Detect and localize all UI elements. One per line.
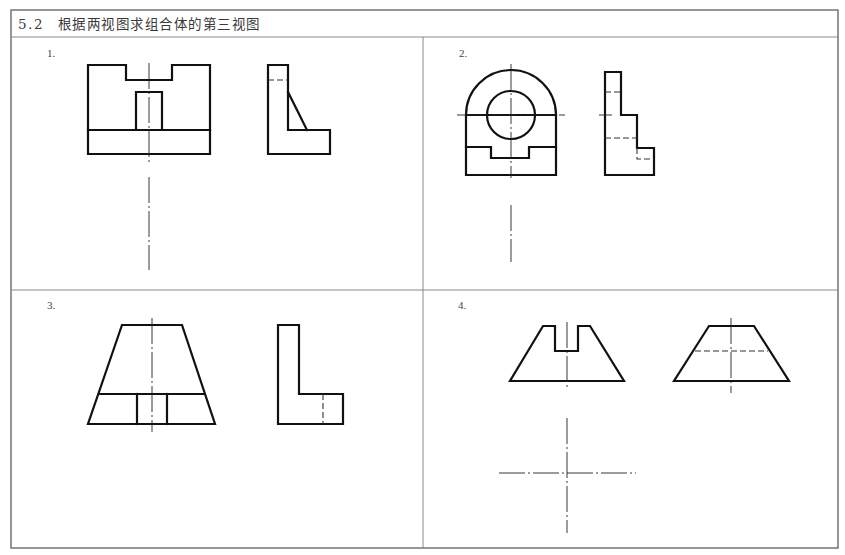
problem-4-top-view-centerlines [499,418,636,533]
problem-2-front-view [457,64,565,178]
problem-3-front-view [88,318,215,432]
problem-3-side-view [278,325,343,424]
problem-1-side-view [268,65,330,154]
drawing-canvas [0,0,845,555]
problem-1-front-view [88,63,210,162]
worksheet-frame [11,10,838,548]
problem-4-side-view [674,318,789,393]
problem-4-front-view [510,322,624,388]
problem-2-side-view [599,72,654,175]
worksheet-page: 5.2根据两视图求组合体的第三视图 1. 2. 3. 4. [0,0,845,555]
